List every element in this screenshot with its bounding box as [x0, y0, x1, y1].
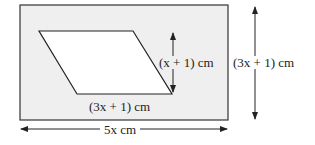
diagram-canvas: [0, 0, 315, 145]
inner-height-label: (x + 1) cm: [158, 56, 215, 69]
inner-base-label: (3x + 1) cm: [89, 100, 150, 113]
outer-width-label: 5x cm: [100, 123, 140, 136]
outer-height-label: (3x + 1) cm: [232, 56, 295, 69]
